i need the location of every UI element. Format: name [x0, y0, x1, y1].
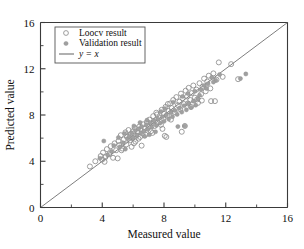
data-point-filled	[121, 141, 125, 145]
data-point-filled	[189, 105, 193, 109]
data-point-filled	[191, 99, 195, 103]
x-tick-label: 16	[282, 212, 294, 224]
data-point-filled	[118, 145, 122, 149]
data-point-filled	[244, 72, 248, 76]
y-tick-label: 12	[24, 63, 35, 75]
scatter-plot-figure: 04812160481216Measured valuePredicted va…	[0, 0, 304, 249]
data-point-filled	[197, 93, 201, 97]
data-point-filled	[180, 94, 184, 98]
data-point-filled	[150, 125, 154, 129]
data-point-open	[139, 143, 144, 148]
data-point-filled	[162, 119, 166, 123]
data-point-filled	[146, 127, 150, 131]
data-point-filled	[160, 115, 164, 119]
data-point-filled	[143, 134, 147, 138]
data-point-open	[111, 155, 116, 160]
data-point-open	[164, 134, 169, 139]
data-point-filled	[123, 147, 127, 151]
legend-marker-filled-circle	[64, 41, 68, 45]
data-point-filled	[186, 92, 190, 96]
x-tick-label: 8	[161, 212, 167, 224]
data-point-filled	[193, 89, 197, 93]
data-point-filled	[140, 124, 144, 128]
data-point-open	[179, 129, 184, 134]
data-point-filled	[152, 119, 156, 123]
y-axis-title: Predicted value	[4, 79, 16, 150]
data-point-filled	[169, 111, 173, 115]
data-point-filled	[183, 124, 187, 128]
data-point-open	[115, 156, 120, 161]
data-point-filled	[123, 131, 127, 135]
data-point-filled	[217, 72, 221, 76]
legend-label: y = x	[78, 49, 99, 59]
data-point-open	[186, 85, 191, 90]
data-point-open	[174, 95, 179, 100]
data-point-open	[93, 159, 98, 164]
data-point-open	[216, 60, 221, 65]
data-point-filled	[142, 129, 146, 133]
data-point-filled	[159, 109, 163, 113]
data-point-open	[211, 71, 216, 76]
data-point-open	[229, 62, 234, 67]
data-point-filled	[153, 130, 157, 134]
data-point-filled	[129, 131, 133, 135]
x-tick-label: 4	[100, 212, 106, 224]
data-point-filled	[194, 103, 198, 107]
y-tick-label: 16	[24, 17, 36, 29]
data-point-filled	[238, 76, 242, 80]
plot-canvas: 04812160481216Measured valuePredicted va…	[0, 0, 304, 249]
data-point-filled	[156, 117, 160, 121]
x-axis-title: Measured value	[127, 228, 200, 240]
legend-label: Loocv result	[79, 28, 127, 38]
data-point-filled	[98, 156, 102, 160]
x-tick-label: 12	[220, 212, 231, 224]
data-point-filled	[182, 104, 186, 108]
y-tick-label: 8	[29, 109, 35, 121]
data-point-filled	[145, 118, 149, 122]
data-point-filled	[116, 135, 120, 139]
data-point-filled	[173, 108, 177, 112]
data-point-open	[114, 148, 119, 153]
data-point-filled	[176, 124, 180, 128]
data-point-filled	[206, 82, 210, 86]
data-point-filled	[175, 112, 179, 116]
data-point-filled	[167, 117, 171, 121]
y-tick-label: 4	[29, 155, 35, 167]
data-point-filled	[177, 106, 181, 110]
x-tick-label: 0	[38, 212, 44, 224]
data-point-filled	[210, 75, 214, 79]
data-point-filled	[171, 100, 175, 104]
data-point-filled	[180, 110, 184, 114]
data-point-filled	[112, 144, 116, 148]
data-point-filled	[164, 113, 168, 117]
data-point-filled	[147, 133, 151, 137]
data-point-filled	[170, 115, 174, 119]
data-point-filled	[135, 133, 139, 137]
data-point-filled	[184, 108, 188, 112]
data-point-filled	[199, 87, 203, 91]
legend: Loocv resultValidation resulty = x	[55, 27, 145, 63]
data-point-filled	[158, 121, 162, 125]
data-point-open	[202, 76, 207, 81]
data-point-filled	[106, 153, 110, 157]
data-point-filled	[144, 123, 148, 127]
legend-label: Validation result	[79, 38, 142, 48]
data-point-filled	[204, 86, 208, 90]
y-tick-label: 0	[29, 202, 35, 214]
series-validation-result	[98, 72, 248, 161]
data-point-filled	[154, 123, 158, 127]
data-point-filled	[187, 101, 191, 105]
data-point-filled	[211, 80, 215, 84]
data-point-filled	[109, 149, 113, 153]
data-point-filled	[131, 135, 135, 139]
data-point-filled	[132, 124, 136, 128]
data-point-filled	[163, 107, 167, 111]
data-point-filled	[138, 120, 142, 124]
data-point-filled	[102, 139, 106, 143]
data-point-open	[87, 164, 92, 169]
